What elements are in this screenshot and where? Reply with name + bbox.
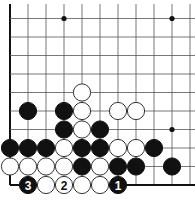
black-stone (163, 158, 180, 175)
star-point (61, 16, 66, 21)
black-stone: 3 (19, 176, 36, 193)
star-point (169, 127, 174, 132)
black-stone-disc (127, 158, 144, 175)
white-stone (19, 158, 36, 175)
white-stone (1, 158, 18, 175)
white-stone: 2 (55, 176, 72, 193)
black-stone (91, 121, 108, 138)
black-stone (91, 139, 108, 156)
black-stone-disc (19, 139, 36, 156)
white-stone (73, 84, 90, 101)
black-stone-disc (91, 139, 108, 156)
white-stone (37, 158, 54, 175)
white-stone-disc (127, 102, 144, 119)
star-point (169, 16, 174, 21)
white-stone-disc (37, 176, 54, 193)
black-stone-disc (1, 139, 18, 156)
black-stone: 1 (109, 176, 126, 193)
white-stone (55, 158, 72, 175)
white-stone-disc (91, 176, 108, 193)
white-stone-disc (1, 158, 18, 175)
black-stone-disc (109, 158, 126, 175)
white-stone-disc (109, 139, 126, 156)
go-board: 321 (0, 0, 195, 200)
black-stone-disc (37, 139, 54, 156)
black-stone-disc (91, 121, 108, 138)
move-number-label: 2 (61, 179, 68, 193)
black-stone (55, 121, 72, 138)
white-stone (91, 158, 108, 175)
white-stone (127, 102, 144, 119)
black-stone-disc (73, 158, 90, 175)
black-stone (19, 139, 36, 156)
white-stone (109, 102, 126, 119)
white-stone-disc (73, 102, 90, 119)
white-stone-disc (19, 158, 36, 175)
white-stone (91, 176, 108, 193)
white-stone-disc (91, 158, 108, 175)
white-stone (127, 139, 144, 156)
white-stone (73, 121, 90, 138)
black-stone (109, 158, 126, 175)
white-stone-disc (73, 176, 90, 193)
white-stone-disc (37, 158, 54, 175)
white-stone-disc (109, 102, 126, 119)
black-stone (1, 139, 18, 156)
black-stone (55, 102, 72, 119)
black-stone (73, 158, 90, 175)
move-number-label: 1 (115, 179, 122, 193)
white-stone (55, 139, 72, 156)
black-stone-disc (19, 102, 36, 119)
black-stone (73, 139, 90, 156)
black-stone (145, 139, 162, 156)
white-stone (109, 139, 126, 156)
black-stone-disc (145, 139, 162, 156)
white-stone-disc (73, 84, 90, 101)
black-stone (19, 102, 36, 119)
black-stone (37, 139, 54, 156)
white-stone-disc (55, 139, 72, 156)
white-stone (37, 176, 54, 193)
white-stone-disc (73, 121, 90, 138)
white-stone-disc (55, 158, 72, 175)
black-stone-disc (55, 102, 72, 119)
black-stone-disc (73, 139, 90, 156)
black-stone (127, 158, 144, 175)
black-stone-disc (163, 158, 180, 175)
white-stone (73, 102, 90, 119)
move-number-label: 3 (25, 179, 32, 193)
white-stone (73, 176, 90, 193)
black-stone-disc (55, 121, 72, 138)
white-stone-disc (127, 139, 144, 156)
